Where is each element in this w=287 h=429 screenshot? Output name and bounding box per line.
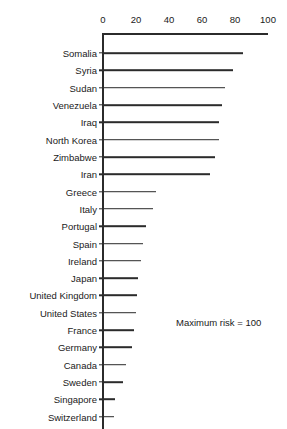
bar: [103, 87, 225, 89]
maximum-risk-annotation: Maximum risk = 100: [176, 317, 261, 329]
category-label: Iraq: [81, 117, 97, 128]
axis-tick-mark: [99, 416, 103, 417]
axis-tick-mark: [99, 70, 103, 71]
bar: [103, 225, 146, 227]
bar: [103, 399, 115, 401]
category-label: France: [67, 325, 97, 336]
axis-tick-mark: [99, 312, 103, 313]
axis-tick-mark: [99, 295, 103, 296]
bar: [103, 416, 114, 418]
axis-tick-mark: [99, 277, 103, 278]
bar: [103, 243, 143, 245]
category-label: Canada: [64, 359, 97, 370]
category-label: United Kingdom: [29, 290, 97, 301]
bar: [103, 277, 138, 279]
category-label: Somalia: [63, 48, 97, 59]
bar: [103, 329, 134, 331]
x-axis-tick-label: 100: [260, 14, 276, 25]
category-label: Sudan: [70, 82, 97, 93]
bar: [103, 104, 222, 106]
category-label: Spain: [73, 238, 97, 249]
axis-tick-mark: [99, 156, 103, 157]
category-label: Switzerland: [48, 411, 97, 422]
category-label: Ireland: [68, 255, 97, 266]
bar: [103, 295, 137, 297]
axis-tick-mark: [99, 208, 103, 209]
bar: [103, 260, 141, 262]
axis-tick-mark: [99, 104, 103, 105]
category-label: Japan: [71, 273, 97, 284]
category-label: Singapore: [54, 394, 97, 405]
category-label: Syria: [75, 65, 97, 76]
axis-tick-mark: [99, 364, 103, 365]
axis-tick-mark: [99, 347, 103, 348]
x-axis-tick-label: 60: [197, 14, 208, 25]
bar: [103, 191, 156, 193]
bar: [103, 312, 136, 314]
axis-tick-mark: [99, 52, 103, 53]
maximum-risk-reference-line: [103, 33, 268, 35]
bar: [103, 347, 132, 349]
bar: [103, 364, 126, 366]
category-label: Italy: [80, 203, 97, 214]
axis-tick-mark: [99, 87, 103, 88]
bar: [103, 52, 243, 54]
bar: [103, 208, 153, 210]
axis-tick-mark: [99, 225, 103, 226]
axis-tick-mark: [99, 174, 103, 175]
bar: [103, 121, 219, 123]
bar: [103, 70, 233, 72]
axis-tick-mark: [99, 329, 103, 330]
category-label: Iran: [81, 169, 97, 180]
x-axis-tick-label: 20: [131, 14, 142, 25]
category-label: Portugal: [62, 221, 97, 232]
axis-tick-mark: [99, 191, 103, 192]
category-label: United States: [40, 307, 97, 318]
axis-tick-mark: [99, 381, 103, 382]
bar: [103, 173, 210, 175]
y-axis-line: [102, 33, 103, 429]
x-axis-tick-label: 0: [100, 14, 105, 25]
bar: [103, 381, 123, 383]
x-axis-tick-label: 80: [230, 14, 241, 25]
category-label: Sweden: [63, 377, 97, 388]
category-label: Zimbabwe: [53, 151, 97, 162]
axis-tick-mark: [99, 243, 103, 244]
axis-tick-mark: [99, 122, 103, 123]
axis-tick-mark: [99, 399, 103, 400]
axis-tick-mark: [99, 139, 103, 140]
category-label: Greece: [66, 186, 97, 197]
category-label: North Korea: [46, 134, 97, 145]
x-axis-tick-label: 40: [164, 14, 175, 25]
axis-tick-mark: [99, 260, 103, 261]
category-label: Venezuela: [53, 99, 97, 110]
category-label: Germany: [58, 342, 97, 353]
bar: [103, 139, 219, 141]
bar: [103, 156, 215, 158]
